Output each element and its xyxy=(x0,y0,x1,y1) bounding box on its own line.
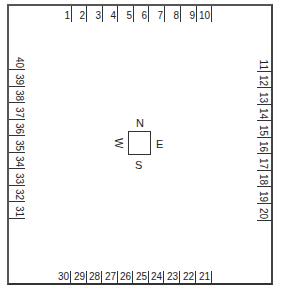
right-marker-label: 17 xyxy=(258,153,268,169)
left-marker-label: 32 xyxy=(14,184,24,200)
left-marker-label: 34 xyxy=(14,151,24,167)
bottom-marker-label: 24 xyxy=(146,272,162,282)
bottom-marker-label: 30 xyxy=(53,272,69,282)
left-marker-label: 33 xyxy=(14,168,24,184)
right-marker-label: 16 xyxy=(258,136,268,152)
top-marker-label: 8 xyxy=(163,11,179,21)
right-marker-label: 20 xyxy=(258,203,268,219)
left-marker-label: 39 xyxy=(14,69,24,85)
bottom-marker-label: 21 xyxy=(194,272,210,282)
top-marker-label: 6 xyxy=(131,11,147,21)
left-marker-label: 36 xyxy=(14,118,24,134)
bottom-marker-label: 29 xyxy=(69,272,85,282)
bottom-marker-label: 27 xyxy=(100,272,116,282)
bottom-marker-label: 23 xyxy=(162,272,178,282)
compass-north-label: N xyxy=(136,118,144,129)
bottom-marker-label: 28 xyxy=(84,272,100,282)
left-marker-label: 37 xyxy=(14,102,24,118)
top-marker-label: 4 xyxy=(100,11,116,21)
bottom-marker-label: 26 xyxy=(115,272,131,282)
left-marker-label: 40 xyxy=(14,52,24,68)
top-marker-label: 7 xyxy=(147,11,163,21)
top-marker-label: 9 xyxy=(179,11,195,21)
compass-square xyxy=(128,131,151,155)
top-marker-label: 3 xyxy=(85,11,101,21)
right-marker-label: 19 xyxy=(258,186,268,202)
top-marker-label: 10 xyxy=(194,11,210,21)
right-marker-label: 11 xyxy=(258,54,268,70)
top-marker-label: 5 xyxy=(116,11,132,21)
right-marker-label: 18 xyxy=(258,169,268,185)
bottom-marker-label: 25 xyxy=(131,272,147,282)
left-marker-label: 35 xyxy=(14,135,24,151)
top-tick xyxy=(211,6,212,22)
compass-south-label: S xyxy=(135,160,142,171)
compass-west-label: W xyxy=(113,138,124,148)
left-marker-label: 31 xyxy=(14,201,24,217)
right-marker-label: 13 xyxy=(258,87,268,103)
top-marker-label: 1 xyxy=(54,11,70,21)
bottom-tick xyxy=(211,271,212,284)
right-marker-label: 12 xyxy=(258,70,268,86)
right-tick xyxy=(257,220,272,221)
top-marker-label: 2 xyxy=(69,11,85,21)
left-tick xyxy=(9,218,25,219)
right-marker-label: 15 xyxy=(258,120,268,136)
bottom-marker-label: 22 xyxy=(178,272,194,282)
left-marker-label: 38 xyxy=(14,85,24,101)
compass-east-label: E xyxy=(156,139,163,150)
right-marker-label: 14 xyxy=(258,103,268,119)
